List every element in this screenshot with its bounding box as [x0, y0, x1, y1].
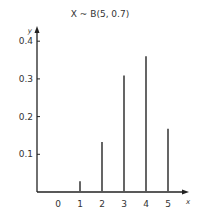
axes	[35, 26, 190, 195]
x-tick-label: 4	[143, 199, 149, 209]
x-tick-label: 1	[77, 199, 83, 209]
y-axis-arrow-icon	[35, 26, 40, 33]
x-axis-arrow-icon	[182, 190, 189, 195]
x-axis-label: x	[185, 198, 191, 206]
chart: X ~ B(5, 0.7) yx0.10.20.30.4012345	[0, 0, 198, 212]
y-tick-label: 0.3	[19, 74, 33, 84]
chart-title: X ~ B(5, 0.7)	[71, 9, 129, 19]
x-tick-label: 2	[99, 199, 105, 209]
y-tick-label: 0.2	[19, 112, 33, 122]
y-tick-label: 0.4	[19, 36, 34, 46]
x-tick-label: 3	[121, 199, 127, 209]
bars	[58, 56, 168, 192]
labels: yx0.10.20.30.4012345	[19, 27, 191, 209]
y-tick-label: 0.1	[19, 149, 33, 159]
y-axis-label: y	[27, 27, 33, 35]
x-tick-label: 5	[165, 199, 171, 209]
x-tick-label: 0	[55, 199, 61, 209]
